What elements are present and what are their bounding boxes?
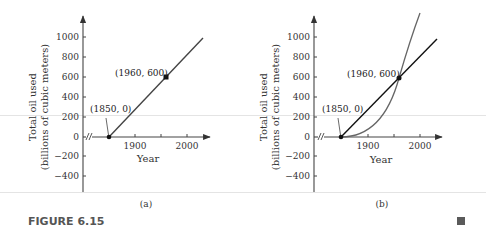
- x-tick-label: 1900: [124, 141, 147, 151]
- y-tick-label: 1000: [56, 32, 79, 42]
- linear-model-line: [341, 39, 437, 137]
- panel-label-a: (a): [140, 199, 152, 209]
- x-axis-title: Year: [369, 154, 393, 165]
- x-tick-label: 2000: [409, 141, 432, 151]
- y-tick-label: −400: [54, 171, 79, 181]
- axis-break-icon: [89, 133, 92, 140]
- y-tick-label: 600: [293, 72, 310, 82]
- y-tick-label: 0: [304, 132, 310, 142]
- y-tick-label: 0: [73, 132, 79, 142]
- y-tick-label: 200: [62, 112, 79, 122]
- data-point-1850: [107, 135, 112, 140]
- linear-model-line: [109, 38, 203, 137]
- leader-line: [338, 118, 341, 135]
- data-point-1850: [339, 135, 344, 140]
- leader-line: [106, 118, 109, 135]
- end-of-example-icon: [457, 217, 465, 225]
- y-tick-label: 400: [293, 92, 310, 102]
- y-tick-label: −200: [54, 151, 79, 161]
- x-tick-label: 2000: [176, 141, 199, 151]
- point-label-1850: (1850, 0): [90, 104, 131, 114]
- y-tick-label: 600: [62, 72, 79, 82]
- point-label-1850: (1850, 0): [322, 104, 363, 114]
- figure-caption: FIGURE 6.15: [28, 215, 105, 228]
- figure-canvas: 1000 800 600 400 200 0 −200 −400 1900 20…: [0, 0, 486, 238]
- y-tick-label: 800: [62, 52, 79, 62]
- y-tick-label: 400: [62, 92, 79, 102]
- x-axis-title: Year: [136, 153, 160, 164]
- y-tick-label: 1000: [287, 32, 310, 42]
- axis-break-icon: [86, 133, 89, 140]
- chart-panel-b: 1000 800 600 400 200 0 −200 −400 1900 20…: [258, 13, 442, 209]
- y-axis-title-line2: (billions of cubic meters): [270, 44, 281, 170]
- point-label-1960: (1960, 600): [115, 68, 168, 78]
- y-axis-title-line2: (billions of cubic meters): [39, 44, 50, 170]
- y-axis-title-line1: Total oil used: [27, 73, 38, 141]
- axis-break-icon: [318, 133, 321, 140]
- axis-break-icon: [321, 133, 324, 140]
- x-tick-label: 1900: [357, 141, 380, 151]
- y-tick-label: 800: [293, 52, 310, 62]
- y-axis-title-line1: Total oil used: [258, 73, 269, 141]
- y-tick-label: 200: [293, 112, 310, 122]
- chart-panel-a: 1000 800 600 400 200 0 −200 −400 1900 20…: [27, 16, 210, 209]
- panel-label-b: (b): [376, 199, 389, 209]
- point-label-1960: (1960, 600): [347, 69, 400, 79]
- y-tick-label: −400: [285, 171, 310, 181]
- y-tick-label: −200: [285, 151, 310, 161]
